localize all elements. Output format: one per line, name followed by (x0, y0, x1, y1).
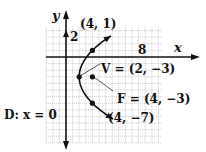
parabola-arrow-top (103, 36, 111, 42)
y-tick-marker (63, 30, 69, 37)
lower-point-label: (4, −7) (108, 111, 154, 125)
focus-label: F = (4, −3) (117, 92, 190, 106)
directrix-label: D: x = 0 (4, 108, 57, 122)
focus-leader (94, 77, 113, 91)
y-axis-label: y (51, 8, 61, 23)
upper-point-label: (4, 1) (80, 17, 116, 31)
point-upper (90, 48, 95, 53)
y-tick-label: 2 (70, 30, 78, 44)
parabola-figure: y 2 x 8 (4, 1) V = (2, −3) F = (4, −3) (… (0, 0, 206, 152)
x-axis-label: x (173, 40, 182, 55)
vertex-label: V = (2, −3) (100, 62, 175, 76)
parabola-curve (79, 36, 113, 119)
x-tick-label: 8 (138, 43, 146, 57)
point-lower (90, 101, 95, 106)
